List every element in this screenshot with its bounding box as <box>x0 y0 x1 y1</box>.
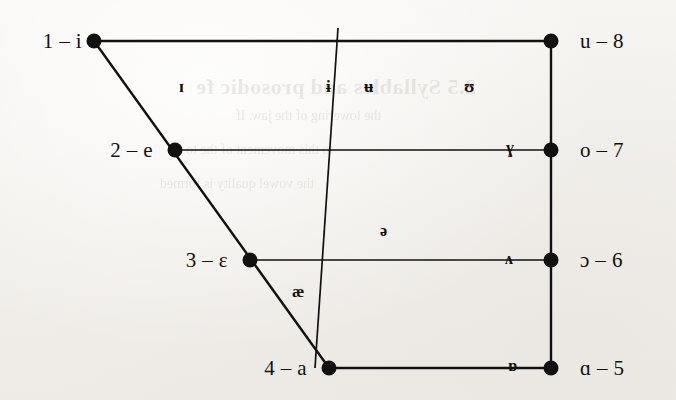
symbol-near-close-front-small-capital-i: ɪ <box>179 78 184 95</box>
dot-close-mid-front-e <box>168 143 183 158</box>
dot-close-mid-back-o <box>544 143 559 158</box>
symbol-close-mid-back-unrounded-gamma: ɣ <box>506 140 514 156</box>
label-open-back-script-a: ɑ – 5 <box>580 358 624 379</box>
quadrilateral-cross-lines <box>175 28 551 368</box>
edge-front-i-to-a <box>94 41 329 368</box>
quadrilateral-svg <box>0 0 676 400</box>
dot-close-front-i <box>87 34 102 49</box>
label-close-front-i: 1 – i <box>10 31 82 52</box>
symbol-close-central-rounded-barred-u: ʉ <box>364 78 373 95</box>
dot-open-mid-front-eps <box>243 253 258 268</box>
quadrilateral-edges <box>94 41 551 368</box>
dot-open-back-script-a <box>544 361 559 376</box>
vertex-dots <box>87 34 559 376</box>
label-close-mid-back-o: o – 7 <box>580 140 624 161</box>
symbol-open-mid-back-unrounded-turned-v: ʌ <box>505 251 513 267</box>
dot-close-back-u <box>544 34 559 49</box>
symbol-close-central-unrounded-barred-i: ɨ <box>326 78 331 95</box>
figure-page: 2.5 Syllables and prosodic fe the loweri… <box>0 0 676 400</box>
label-open-mid-back-open-o: ɔ – 6 <box>580 250 623 271</box>
symbol-mid-central-schwa: ə <box>380 223 387 239</box>
symbol-near-open-front-ash: æ <box>292 283 304 300</box>
symbol-open-back-rounded-turned-script-a: ɒ <box>508 358 517 374</box>
label-close-mid-front-e: 2 – e <box>20 140 153 161</box>
label-open-front-a: 4 – a <box>20 358 307 379</box>
symbol-near-close-back-upsilon: ʊ <box>464 78 475 95</box>
dot-open-mid-back-oc <box>544 253 559 268</box>
label-open-mid-front-epsilon: 3 – ɛ <box>20 250 228 271</box>
label-close-back-u: u – 8 <box>580 31 624 52</box>
dot-open-front-a <box>322 361 337 376</box>
vowel-quadrilateral-diagram: 1 – i u – 8 2 – e o – 7 3 – ɛ ɔ – 6 4 – … <box>0 0 676 400</box>
